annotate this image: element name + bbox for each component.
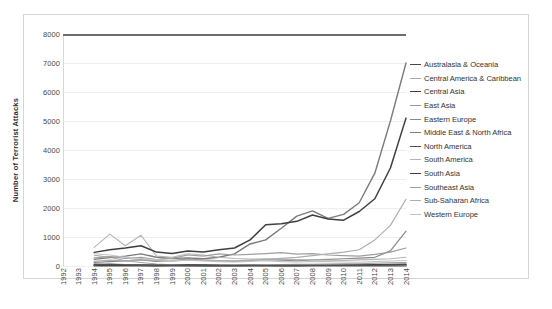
x-axis-tick: 2006 <box>274 268 288 285</box>
legend-line-icon <box>410 187 421 188</box>
x-axis-tick: 1997 <box>134 268 148 285</box>
legend-item[interactable]: Western Europe <box>410 208 550 222</box>
legend-item-label: Southeast Asia <box>424 183 474 192</box>
x-axis-tick-label: 1995 <box>105 268 114 285</box>
x-axis-tick: 2010 <box>337 268 351 285</box>
y-axis-tick: 7000 <box>43 59 60 68</box>
x-axis-tick: 2007 <box>290 268 304 285</box>
x-axis-tick-label: 2011 <box>355 268 364 285</box>
legend-item-label: Western Europe <box>424 210 478 219</box>
x-axis-tick: 1992 <box>56 268 70 285</box>
x-axis-tick-label: 2005 <box>261 268 270 285</box>
x-axis-tick-label: 2014 <box>402 268 411 285</box>
series-line <box>94 63 406 259</box>
x-axis-tick: 2009 <box>321 268 335 285</box>
x-axis-tick: 1995 <box>103 268 117 285</box>
x-axis-tick-label: 1996 <box>121 268 130 285</box>
x-axis-tick: 2013 <box>383 268 397 285</box>
legend-item-label: Middle East & North Africa <box>424 128 511 137</box>
legend-line-icon <box>410 200 421 201</box>
x-axis-tick: 2008 <box>305 268 319 285</box>
x-axis-tick-label: 2010 <box>339 268 348 285</box>
x-axis-tick: 2014 <box>399 268 413 285</box>
x-axis-tick-label: 1998 <box>152 268 161 285</box>
y-axis-tick: 1000 <box>43 233 60 242</box>
x-axis-tick-label: 2009 <box>324 268 333 285</box>
x-axis-tick-label: 1994 <box>90 268 99 285</box>
legend-line-icon <box>410 105 421 106</box>
x-axis-tick-label: 2003 <box>230 268 239 285</box>
legend-item[interactable]: Sub-Saharan Africa <box>410 194 550 208</box>
legend-line-icon <box>410 64 421 65</box>
x-axis-tick: 2012 <box>368 268 382 285</box>
legend-item-label: Australasia & Oceania <box>424 60 498 69</box>
x-axis-tick: 2003 <box>228 268 242 285</box>
x-axis-tick-label: 2001 <box>199 268 208 285</box>
legend-item[interactable]: Central Asia <box>410 85 550 99</box>
legend-item[interactable]: Eastern Europe <box>410 112 550 126</box>
x-axis-tick-label: 2004 <box>246 268 255 285</box>
legend-item-label: Central Asia <box>424 87 464 96</box>
x-axis-tick: 1998 <box>150 268 164 285</box>
x-axis-tick: 2000 <box>181 268 195 285</box>
x-axis-tick-label: 1993 <box>74 268 83 285</box>
series-line <box>94 118 406 253</box>
legend-line-icon <box>410 78 421 79</box>
legend-item[interactable]: Southeast Asia <box>410 180 550 194</box>
legend-item-label: Eastern Europe <box>424 115 476 124</box>
x-axis-tick: 1993 <box>72 268 86 285</box>
legend-line-icon <box>410 159 421 160</box>
y-axis-tick: 3000 <box>43 175 60 184</box>
series-lines <box>63 34 406 266</box>
x-axis-line <box>63 34 406 36</box>
x-axis-tick-label: 1992 <box>59 268 68 285</box>
x-axis-tick: 2005 <box>259 268 273 285</box>
legend-item[interactable]: North America <box>410 140 550 154</box>
x-axis-tick: 2004 <box>243 268 257 285</box>
legend-item[interactable]: South Asia <box>410 167 550 181</box>
x-axis-tick: 2001 <box>196 268 210 285</box>
x-axis-tick: 2011 <box>352 268 366 285</box>
y-axis-title-label: Number of Terrorist Attacks <box>11 98 20 202</box>
x-axis-tick-labels: 1992199319941995199619971998199920002001… <box>63 268 406 308</box>
legend-line-icon <box>410 119 421 120</box>
legend-item-label: North America <box>424 142 471 151</box>
x-axis-tick-label: 2012 <box>370 268 379 285</box>
legend-line-icon <box>410 91 421 92</box>
y-axis-tick: 5000 <box>43 117 60 126</box>
x-axis-tick: 1999 <box>165 268 179 285</box>
y-axis-tick: 8000 <box>43 30 60 39</box>
chart-figure: Number of Terrorist Attacks 800070006000… <box>0 0 552 309</box>
x-axis-tick: 1994 <box>87 268 101 285</box>
x-axis-tick-label: 2007 <box>292 268 301 285</box>
x-axis-tick-label: 2013 <box>386 268 395 285</box>
legend-line-icon <box>410 132 421 133</box>
x-axis-tick-label: 1999 <box>168 268 177 285</box>
legend-item-label: East Asia <box>424 101 455 110</box>
legend-item[interactable]: South America <box>410 153 550 167</box>
x-axis-tick-label: 2008 <box>308 268 317 285</box>
legend-item[interactable]: Australasia & Oceania <box>410 58 550 72</box>
chart-legend: Australasia & OceaniaCentral America & C… <box>410 58 550 221</box>
legend-item[interactable]: Central America & Caribbean <box>410 72 550 86</box>
y-axis-title: Number of Terrorist Attacks <box>8 34 22 266</box>
legend-item-label: Central America & Caribbean <box>424 74 521 83</box>
x-axis-tick: 2002 <box>212 268 226 285</box>
y-axis-tick: 2000 <box>43 204 60 213</box>
legend-item-label: South Asia <box>424 169 460 178</box>
legend-item-label: Sub-Saharan Africa <box>424 196 489 205</box>
x-axis-tick-label: 2002 <box>214 268 223 285</box>
legend-item[interactable]: East Asia <box>410 99 550 113</box>
legend-item[interactable]: Middle East & North Africa <box>410 126 550 140</box>
x-axis-tick-label: 2000 <box>183 268 192 285</box>
series-line <box>94 199 406 261</box>
y-axis-tick-labels: 800070006000500040003000200010000 <box>24 34 60 266</box>
legend-line-icon <box>410 214 421 215</box>
legend-line-icon <box>410 173 421 174</box>
x-axis-tick-label: 2006 <box>277 268 286 285</box>
y-axis-tick: 6000 <box>43 88 60 97</box>
x-axis-tick: 1996 <box>118 268 132 285</box>
legend-line-icon <box>410 146 421 147</box>
x-axis-tick-label: 1997 <box>136 268 145 285</box>
legend-item-label: South America <box>424 155 473 164</box>
